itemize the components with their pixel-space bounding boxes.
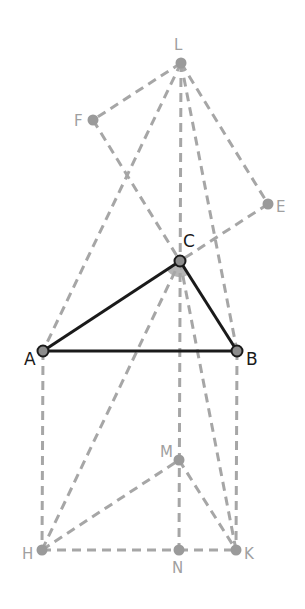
- label-M: M: [160, 443, 173, 461]
- dashed-segment-FC: [93, 120, 180, 261]
- point-F: [88, 115, 99, 126]
- label-E: E: [276, 198, 285, 216]
- label-N: N: [172, 559, 183, 577]
- point-E: [263, 199, 274, 210]
- dashed-segment-BK: [236, 351, 237, 550]
- geometry-diagram: ABCLFEMHNK: [0, 0, 305, 609]
- point-C: [175, 256, 186, 267]
- point-B: [232, 346, 243, 357]
- label-A: A: [24, 349, 36, 369]
- label-F: F: [74, 112, 83, 130]
- point-A: [38, 346, 49, 357]
- dashed-segment-HC: [42, 261, 180, 550]
- point-L: [176, 58, 187, 69]
- point-K: [231, 545, 242, 556]
- dashed-segment-LE: [181, 63, 268, 204]
- label-L: L: [174, 36, 183, 54]
- point-H: [37, 545, 48, 556]
- label-C: C: [183, 231, 195, 251]
- dashed-segment-LN: [179, 63, 181, 550]
- point-M: [174, 455, 185, 466]
- point-N: [174, 545, 185, 556]
- label-B: B: [246, 349, 258, 369]
- label-H: H: [22, 545, 33, 563]
- label-K: K: [244, 545, 255, 563]
- dashed-segment-AH: [42, 351, 43, 550]
